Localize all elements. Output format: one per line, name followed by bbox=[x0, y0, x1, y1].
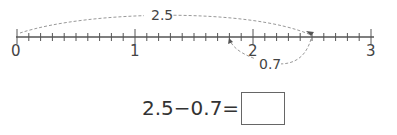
arc-label-2-5: 2.5 bbox=[151, 8, 173, 22]
equation: 2.5−0.7= bbox=[142, 91, 285, 125]
arrowhead-icon bbox=[228, 38, 233, 44]
number-line bbox=[0, 0, 397, 80]
tick-label-2: 2 bbox=[248, 44, 258, 59]
arc-label-0-7: 0.7 bbox=[259, 57, 281, 71]
answer-box[interactable] bbox=[241, 92, 285, 125]
tick-label-0: 0 bbox=[11, 44, 21, 59]
tick-label-1: 1 bbox=[130, 44, 140, 59]
tick-label-3: 3 bbox=[366, 44, 376, 59]
equation-expression: 2.5−0.7= bbox=[142, 96, 239, 120]
